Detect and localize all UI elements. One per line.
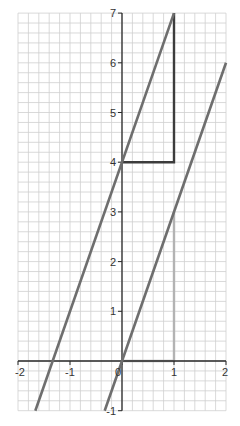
y-tick-label: 7 [110,7,116,19]
y-tick-label: -1 [106,405,116,417]
series-line [105,63,226,411]
y-tick-label: 6 [110,57,116,69]
x-tick-label: -1 [65,366,75,378]
x-tick-label: 2 [222,366,228,378]
y-tick-label: 2 [110,256,116,268]
y-tick-label: 5 [110,107,116,119]
y-tick-label: 1 [110,305,116,317]
y-tick-label: 3 [110,206,116,218]
y-tick-label: 4 [110,156,116,168]
gradient-triangles [122,13,174,361]
x-tick-label: -2 [15,366,25,378]
x-tick-label: 1 [171,366,177,378]
x-tick-label: 0 [115,366,121,378]
graph-chart: -2-1012-11234567 [0,0,240,426]
